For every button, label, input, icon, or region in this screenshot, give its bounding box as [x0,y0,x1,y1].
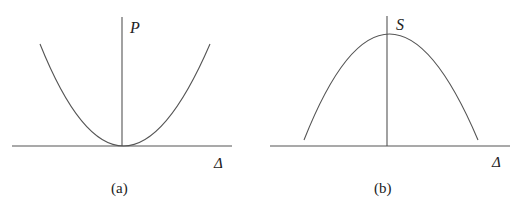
figure: P Δ (a) S Δ (b) [0,0,521,205]
y-label-a: P [129,19,140,36]
panel-a: P Δ (a) [12,17,232,197]
caption-a: (a) [111,180,128,197]
caption-b: (b) [374,180,392,197]
curve-s [304,34,478,140]
curve-p [40,44,210,146]
y-label-b: S [396,16,404,33]
panel-b: S Δ (b) [270,16,510,197]
x-label-a: Δ [213,155,223,171]
x-label-b: Δ [491,154,501,170]
